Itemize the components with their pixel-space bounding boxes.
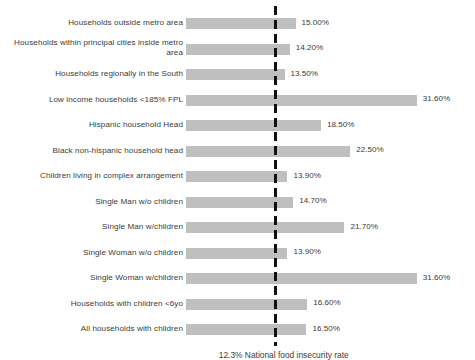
bar-category-label: Black non-hispanic household head <box>1 146 183 156</box>
national-rate-reference-line <box>274 6 277 346</box>
bar-category-label: Single Man w/children <box>1 222 183 232</box>
bar <box>186 222 344 233</box>
bar-row: Children living in complex arrangement13… <box>0 164 475 190</box>
bar-category-label: Low income households <185% FPL <box>1 95 183 105</box>
bar <box>186 18 296 29</box>
bar-value-label: 13.90% <box>293 171 320 180</box>
bar-row: Single Man w/children21.70% <box>0 215 475 241</box>
bar-row: Households with children <6yo16.60% <box>0 292 475 318</box>
bar <box>186 273 417 284</box>
bar-category-label: Households within principal cities insid… <box>1 38 183 58</box>
bar-category-label: Single Woman w/children <box>1 273 183 283</box>
bar-value-label: 16.50% <box>312 324 339 333</box>
bar <box>186 324 306 335</box>
bar-category-label: Households regionally in the South <box>1 69 183 79</box>
bar-row: Hispanic household Head18.50% <box>0 113 475 139</box>
bar-row: Single Man w/o children14.70% <box>0 190 475 216</box>
bar <box>186 299 307 310</box>
bar <box>186 146 350 157</box>
food-insecurity-bar-chart: Households outside metro area15.00%House… <box>0 0 475 360</box>
bar-value-label: 21.70% <box>350 222 377 231</box>
bar-value-label: 16.60% <box>313 298 340 307</box>
bar-category-label: Households with children <6yo <box>1 299 183 309</box>
bar-category-label: All households with children <box>1 324 183 334</box>
bar-row: All households with children16.50% <box>0 317 475 343</box>
bar-value-label: 14.70% <box>299 196 326 205</box>
bar-row: Households within principal cities insid… <box>0 37 475 63</box>
bar-row: Black non-hispanic household head22.50% <box>0 139 475 165</box>
bar <box>186 248 287 259</box>
bar-category-label: Hispanic household Head <box>1 120 183 130</box>
bar-row: Low income households <185% FPL31.60% <box>0 88 475 114</box>
national-rate-caption: 12.3% National food insecurity rate <box>219 350 349 360</box>
bar-value-label: 13.50% <box>291 69 318 78</box>
bar-value-label: 14.20% <box>296 43 323 52</box>
bar <box>186 95 417 106</box>
bar-value-label: 31.60% <box>423 94 450 103</box>
bar-category-label: Children living in complex arrangement <box>1 171 183 181</box>
bar <box>186 171 287 182</box>
bar-value-label: 31.60% <box>423 273 450 282</box>
bar <box>186 69 285 80</box>
bar-row: Households regionally in the South13.50% <box>0 62 475 88</box>
bar-row: Single Woman w/o children13.90% <box>0 241 475 267</box>
bar-row: Single Woman w/children31.60% <box>0 266 475 292</box>
bar-category-label: Single Man w/o children <box>1 197 183 207</box>
bar-value-label: 18.50% <box>327 120 354 129</box>
bar-category-label: Households outside metro area <box>1 18 183 28</box>
bar <box>186 120 321 131</box>
bar-value-label: 13.90% <box>293 247 320 256</box>
bar-category-label: Single Woman w/o children <box>1 248 183 258</box>
bar-row: Households outside metro area15.00% <box>0 11 475 37</box>
plot-area: Households outside metro area15.00%House… <box>0 0 475 345</box>
bar-value-label: 22.50% <box>356 145 383 154</box>
bar-value-label: 15.00% <box>302 18 329 27</box>
